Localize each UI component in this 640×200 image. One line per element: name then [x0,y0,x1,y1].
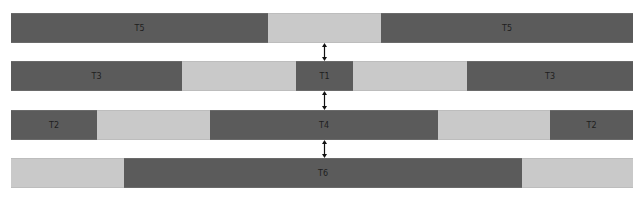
task-label: T1 [320,72,330,81]
timeline-row-4: T6 [11,158,633,188]
task-segment: T2 [550,110,633,140]
idle-segment [182,61,296,91]
task-label: T3 [545,72,555,81]
idle-segment [438,110,550,140]
task-label: T5 [502,24,512,33]
timeline-row-1: T5T5 [11,13,633,43]
task-label: T5 [135,24,145,33]
task-label: T2 [587,121,597,130]
task-segment: T1 [296,61,353,91]
idle-segment [11,158,124,188]
task-label: T6 [318,169,328,178]
timeline-diagram: T5T5T3T1T3T2T4T2T6 [0,0,640,200]
task-segment: T4 [210,110,438,140]
task-segment: T3 [467,61,633,91]
task-label: T4 [319,121,329,130]
task-segment: T2 [11,110,97,140]
task-segment: T5 [381,13,633,43]
timeline-row-3: T2T4T2 [11,110,633,140]
timeline-row-2: T3T1T3 [11,61,633,91]
idle-segment [522,158,633,188]
task-label: T3 [92,72,102,81]
task-segment: T6 [124,158,522,188]
double-arrow-icon [320,91,329,110]
idle-segment [268,13,381,43]
idle-segment [353,61,467,91]
double-arrow-icon [320,43,329,61]
task-label: T2 [49,121,59,130]
double-arrow-icon [320,140,329,158]
idle-segment [97,110,210,140]
task-segment: T3 [11,61,182,91]
task-segment: T5 [11,13,268,43]
